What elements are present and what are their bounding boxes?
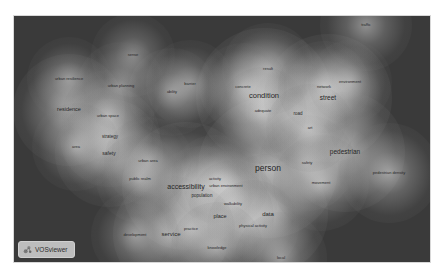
term-label[interactable]: development xyxy=(124,233,147,237)
term-label[interactable]: urban environment xyxy=(209,184,242,188)
term-label[interactable]: environment xyxy=(339,80,361,84)
term-label[interactable]: sense xyxy=(128,53,139,57)
term-label[interactable]: movement xyxy=(312,181,331,185)
term-label[interactable]: data xyxy=(262,211,274,217)
vosviewer-logo-label: VOSviewer xyxy=(35,246,68,253)
term-label[interactable]: local xyxy=(277,256,285,260)
term-label[interactable]: network xyxy=(317,85,331,89)
term-label[interactable]: adequate xyxy=(255,109,272,113)
term-label[interactable]: concrete xyxy=(235,85,250,89)
term-label[interactable]: residence xyxy=(57,107,81,113)
term-label[interactable]: pedestrian xyxy=(330,149,360,156)
term-label[interactable]: service xyxy=(161,231,180,237)
term-label[interactable]: accessibility xyxy=(167,183,204,190)
term-label[interactable]: population xyxy=(192,194,213,199)
term-label[interactable]: area xyxy=(72,145,80,149)
density-map-canvas[interactable]: personconditionaccessibilitystreetpedest… xyxy=(14,16,430,262)
term-label[interactable]: urban planning xyxy=(108,84,134,88)
term-label[interactable]: person xyxy=(255,164,281,173)
vosviewer-logo-icon xyxy=(23,245,32,254)
term-label[interactable]: street xyxy=(320,95,336,102)
term-label[interactable]: urban space xyxy=(97,114,119,118)
term-label[interactable]: road xyxy=(293,112,302,117)
term-label[interactable]: result xyxy=(263,67,273,71)
term-label[interactable]: public realm xyxy=(129,177,151,181)
term-label[interactable]: strategy xyxy=(102,135,118,140)
vosviewer-logo[interactable]: VOSviewer xyxy=(18,241,75,258)
term-label[interactable]: physical activity xyxy=(239,224,267,228)
density-blob xyxy=(91,191,179,262)
term-label[interactable]: barrier xyxy=(184,82,196,86)
term-label[interactable]: ability xyxy=(167,90,177,94)
term-label[interactable]: urban resilience xyxy=(55,77,83,81)
term-label[interactable]: safety xyxy=(302,161,313,165)
term-label[interactable]: knowledge xyxy=(207,246,226,250)
term-label[interactable]: art xyxy=(308,126,313,130)
term-label[interactable]: traffic xyxy=(361,23,371,27)
term-label[interactable]: safety xyxy=(102,151,115,156)
term-label[interactable]: walkability xyxy=(224,202,242,206)
term-label[interactable]: condition xyxy=(249,92,279,100)
term-label[interactable]: urban area xyxy=(138,159,157,163)
term-label[interactable]: pedestrian density xyxy=(373,171,405,175)
density-blob xyxy=(171,202,263,262)
term-label[interactable]: place xyxy=(213,214,226,220)
term-label[interactable]: practice xyxy=(184,227,198,231)
term-label[interactable]: activity xyxy=(209,177,221,181)
